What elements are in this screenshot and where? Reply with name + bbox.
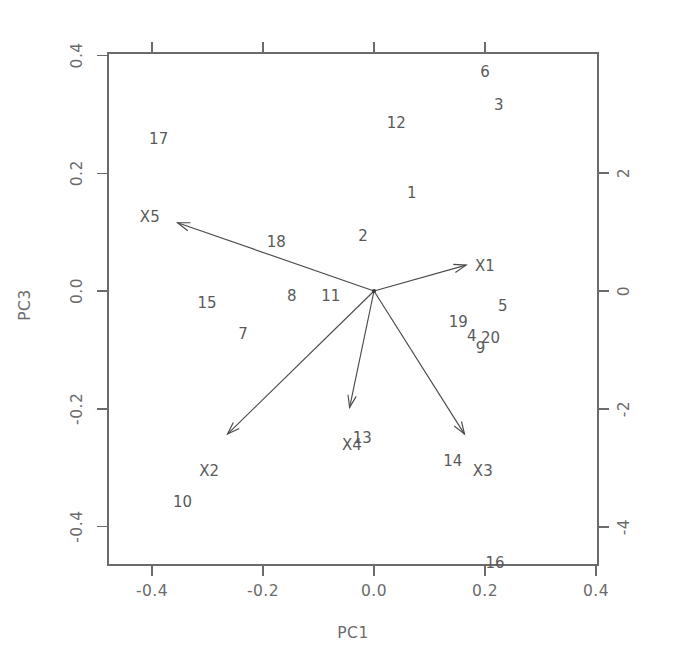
top-axis-ticks — [152, 42, 485, 53]
left-axis-tick-labels: -0.4-0.20.00.20.4 — [68, 42, 86, 542]
x-tick-label: 0.2 — [472, 582, 498, 600]
bottom-axis-ticks — [152, 565, 596, 576]
y-tick-label: -0.4 — [68, 510, 86, 542]
pca-biplot-figure: -0.4-0.20.00.20.4 -0.4-0.20.00.20.4 -4-2… — [0, 0, 677, 671]
variable-label: X3 — [473, 462, 493, 480]
observation-label: 8 — [287, 287, 297, 305]
x-axis-title: PC1 — [337, 624, 369, 642]
x-tick-label: 0.4 — [583, 582, 609, 600]
observation-label: 14 — [443, 452, 462, 470]
variable-label: X4 — [342, 436, 362, 454]
x-tick-label: -0.4 — [136, 582, 168, 600]
origin-point — [372, 289, 376, 293]
observation-label: 7 — [238, 325, 248, 343]
variable-vector — [227, 291, 374, 434]
right-tick-label: -4 — [615, 519, 633, 535]
observation-label: 2 — [358, 227, 368, 245]
observation-label: 16 — [485, 554, 504, 572]
y-tick-label: 0.4 — [68, 42, 86, 68]
right-axis-tick-labels: -4-202 — [615, 168, 633, 535]
observation-label: 19 — [449, 313, 468, 331]
observation-label: 20 — [481, 329, 500, 347]
right-axis-ticks — [598, 173, 609, 527]
y-tick-label: 0.2 — [68, 160, 86, 186]
plot-box — [108, 53, 598, 565]
right-tick-label: 0 — [615, 286, 633, 296]
bottom-axis-tick-labels: -0.4-0.20.00.20.4 — [136, 582, 609, 600]
observation-label: 1 — [407, 184, 417, 202]
observation-label-layer: 1234567891011121314151617181920 — [149, 63, 507, 572]
variable-label: X2 — [199, 462, 219, 480]
variable-label: X5 — [140, 208, 160, 226]
vector-shaft — [350, 291, 374, 408]
observation-label: 3 — [494, 96, 504, 114]
vector-shaft — [227, 291, 374, 434]
variable-vector-layer — [178, 223, 467, 434]
observation-label: 17 — [149, 130, 168, 148]
y-axis-title: PC3 — [16, 289, 34, 321]
vector-shaft — [374, 265, 466, 291]
biplot-canvas: -0.4-0.20.00.20.4 -0.4-0.20.00.20.4 -4-2… — [0, 0, 677, 671]
x-tick-label: -0.2 — [247, 582, 279, 600]
variable-label: X1 — [475, 257, 495, 275]
variable-label-layer: X1X2X3X4X5 — [140, 208, 495, 480]
variable-vector — [374, 264, 466, 291]
x-tick-label: 0.0 — [361, 582, 387, 600]
observation-label: 6 — [480, 63, 490, 81]
left-axis-ticks — [97, 55, 108, 526]
vector-arrowhead — [454, 422, 464, 435]
right-tick-label: -2 — [615, 401, 633, 417]
observation-label: 5 — [498, 297, 508, 315]
observation-label: 18 — [267, 233, 286, 251]
right-tick-label: 2 — [615, 168, 633, 178]
y-tick-label: -0.2 — [68, 393, 86, 425]
variable-vector — [348, 291, 374, 408]
observation-label: 12 — [387, 114, 406, 132]
observation-label: 11 — [321, 287, 340, 305]
y-tick-label: 0.0 — [68, 278, 86, 304]
observation-label: 10 — [173, 493, 192, 511]
observation-label: 15 — [197, 294, 216, 312]
